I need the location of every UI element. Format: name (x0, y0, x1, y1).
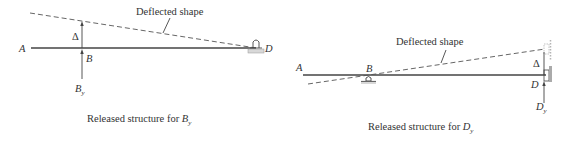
right-reaction-arrowhead (542, 81, 545, 86)
right-caption: Released structure for Dy (368, 121, 474, 135)
right-deflected-label: Deflected shape (396, 36, 464, 47)
right-guide-support-icon (544, 66, 552, 82)
right-point-A: A (295, 62, 303, 73)
left-point-A: A (18, 43, 26, 54)
left-deflected-shape (30, 13, 256, 48)
diagram-canvas: Deflected shape Δ B By A D Released stru… (0, 0, 567, 143)
left-deflected-label: Deflected shape (136, 6, 204, 17)
right-reaction-label: Dy (535, 101, 548, 115)
right-panel: Deflected shape A B Δ D Dy Released stru… (295, 36, 552, 135)
left-point-D: D (264, 43, 273, 54)
right-roller-support-icon (361, 77, 376, 85)
left-pin-support-icon (248, 40, 264, 53)
right-delta-label: Δ (533, 58, 540, 69)
left-point-B: B (86, 53, 93, 64)
right-deflected-leader (441, 50, 446, 63)
left-reaction-arrowhead (80, 49, 83, 54)
right-point-D: D (530, 79, 539, 90)
left-caption: Released structure for By (87, 113, 192, 127)
right-point-B: B (366, 63, 373, 74)
right-deflected-shape (308, 49, 545, 84)
left-reaction-label: By (75, 83, 85, 97)
left-delta-arrowhead (80, 21, 83, 26)
left-panel: Deflected shape Δ B By A D Released stru… (18, 6, 273, 127)
left-delta-label: Δ (72, 31, 79, 42)
left-deflected-leader (163, 18, 170, 33)
right-displaced-guide-icon (544, 40, 551, 60)
